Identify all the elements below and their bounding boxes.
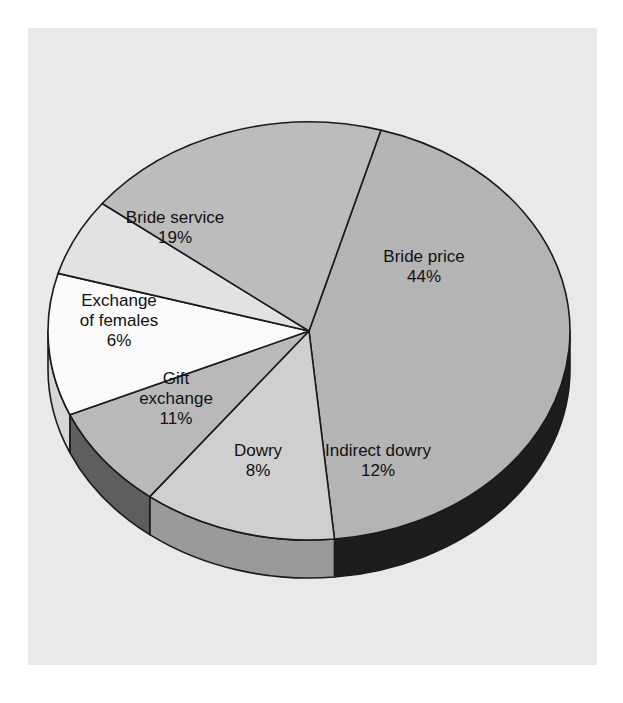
slice-label-line: 12% (361, 461, 395, 480)
slice-label-line: Indirect dowry (325, 441, 431, 460)
slice-label-line: Exchange (81, 291, 157, 310)
slice-label-line: 19% (158, 228, 192, 247)
slice-label-line: of females (80, 311, 158, 330)
slice-label-line: exchange (139, 389, 213, 408)
slice-label-line: Bride service (126, 208, 224, 227)
slice-label-line: Dowry (234, 441, 283, 460)
pie-chart: Bride price44%Indirect dowry12%Dowry8%Gi… (0, 0, 623, 703)
slice-label-line: 44% (407, 267, 441, 286)
slice-label-line: Gift (163, 369, 190, 388)
slice-label-line: Bride price (383, 247, 464, 266)
slice-label-line: 6% (107, 331, 132, 350)
slice-label-line: 11% (160, 409, 193, 428)
slice-label-line: 8% (246, 461, 271, 480)
figure-canvas: Bride price44%Indirect dowry12%Dowry8%Gi… (0, 0, 623, 703)
